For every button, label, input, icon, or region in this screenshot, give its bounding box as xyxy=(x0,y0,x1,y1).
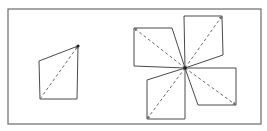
petal-bottom-left-arrowhead-icon xyxy=(147,115,150,119)
petal-top-left xyxy=(134,28,185,68)
left-quadrilateral-figure xyxy=(39,44,80,99)
petal-top-right-arrowhead-icon xyxy=(219,16,222,20)
center-dot xyxy=(183,66,187,70)
petal-top-right xyxy=(184,16,223,68)
vertex-dot xyxy=(76,44,79,47)
petal-bottom-left-dashed-diagonal xyxy=(147,68,185,119)
pinwheel-figure xyxy=(134,16,236,119)
petal-bottom-right-arrowhead-icon xyxy=(232,102,236,105)
petal-bottom-left xyxy=(147,68,185,119)
petal-bottom-left-outline xyxy=(147,68,185,119)
petal-top-left-dashed-diagonal xyxy=(134,28,185,68)
left-quad-dashed-diagonal xyxy=(40,46,78,99)
diagram-canvas xyxy=(0,0,267,131)
petal-bottom-right-dashed-diagonal xyxy=(185,68,236,105)
petal-bottom-right-outline xyxy=(185,68,236,105)
petal-top-right-dashed-diagonal xyxy=(185,16,222,68)
petal-top-right-outline xyxy=(184,16,223,68)
petal-bottom-right xyxy=(185,68,236,105)
